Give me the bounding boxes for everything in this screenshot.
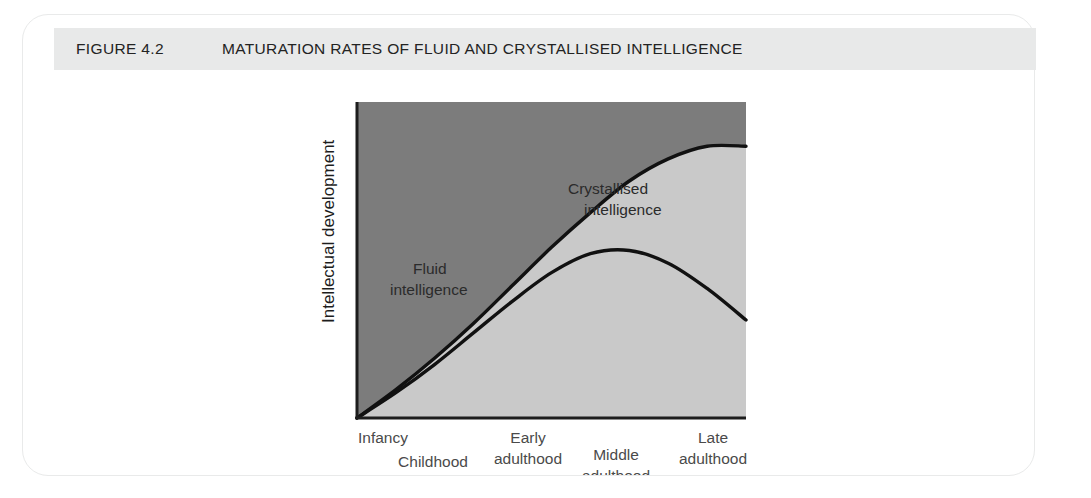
x-tick-label-middle-adulthood-line1: Middle xyxy=(593,446,639,463)
figure-number: FIGURE 4.2 xyxy=(76,40,164,58)
fluid-label-line1: Fluid xyxy=(413,260,447,277)
maturation-rates-chart: Intellectual development Crystallised in… xyxy=(23,71,1034,475)
x-tick-label-late-adulthood-line2: adulthood xyxy=(679,450,747,467)
figure-header-bar: FIGURE 4.2 MATURATION RATES OF FLUID AND… xyxy=(54,28,1036,70)
crystallised-label-line1: Crystallised xyxy=(568,180,648,197)
y-axis-title: Intellectual development xyxy=(319,139,338,323)
x-tick-label-infancy: Infancy xyxy=(358,429,408,446)
crystallised-label-line2: intelligence xyxy=(584,201,662,218)
chart-area: Intellectual development Crystallised in… xyxy=(23,71,1034,475)
fluid-label-line2: intelligence xyxy=(390,281,468,298)
x-tick-label-early-adulthood-line2: adulthood xyxy=(494,450,562,467)
figure-title: MATURATION RATES OF FLUID AND CRYSTALLIS… xyxy=(222,40,743,58)
x-tick-label-middle-adulthood-line2: adulthood xyxy=(582,467,650,475)
x-tick-label-childhood: Childhood xyxy=(398,453,468,470)
x-tick-label-early-adulthood-line1: Early xyxy=(510,429,546,446)
x-tick-label-late-adulthood-line1: Late xyxy=(698,429,728,446)
figure-card: FIGURE 4.2 MATURATION RATES OF FLUID AND… xyxy=(22,14,1035,476)
